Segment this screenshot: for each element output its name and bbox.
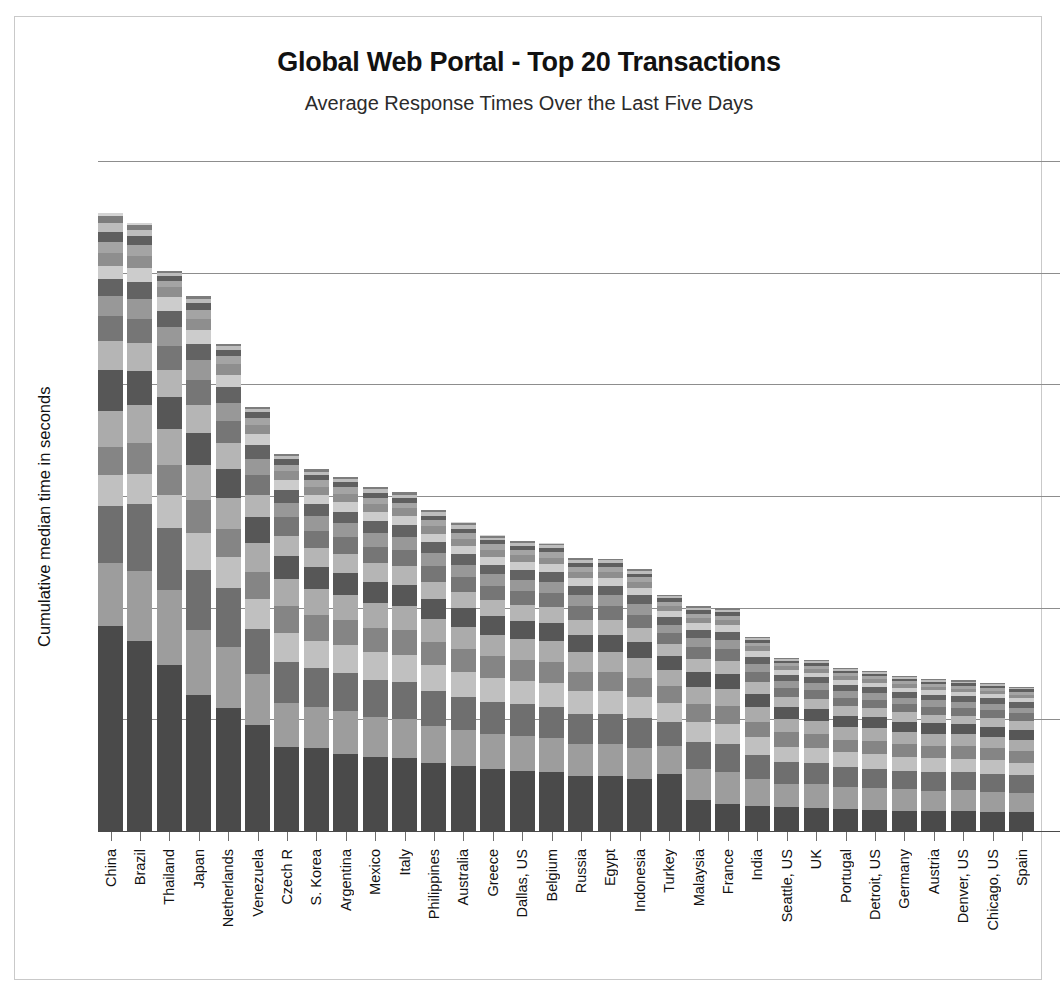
bar[interactable] <box>274 454 299 831</box>
bar-segment <box>392 758 417 831</box>
bar-segment <box>568 652 593 672</box>
x-tick-label: Russia <box>572 849 590 893</box>
bar-segment <box>216 443 241 469</box>
bar[interactable] <box>715 608 740 831</box>
x-tick-label: Venezuela <box>249 849 267 917</box>
bar-segment <box>245 459 270 475</box>
bar-segment <box>245 599 270 629</box>
x-tick <box>522 832 523 841</box>
chart-subtitle: Average Response Times Over the Last Fiv… <box>15 92 1043 115</box>
bar-segment <box>274 480 299 490</box>
bar-segment <box>186 405 211 433</box>
bar-segment <box>745 657 770 664</box>
bar-segment <box>568 586 593 595</box>
bar[interactable] <box>245 407 270 831</box>
bar[interactable] <box>186 296 211 831</box>
bar-segment <box>862 810 887 831</box>
bar-segment <box>921 758 946 772</box>
bar-segment <box>745 779 770 806</box>
bar[interactable] <box>686 606 711 831</box>
bar-segment <box>568 691 593 714</box>
bar-segment <box>980 718 1005 727</box>
bar-segment <box>421 582 446 599</box>
bar-segment <box>892 744 917 756</box>
x-tick-label: Brazil <box>131 849 149 885</box>
bar-segment <box>774 732 799 746</box>
bar-segment <box>892 722 917 733</box>
bar-segment <box>951 759 976 773</box>
bar-segment <box>157 370 182 397</box>
bar-segment <box>862 700 887 708</box>
bar-segment <box>657 703 682 722</box>
bar[interactable] <box>304 469 329 831</box>
bar-segment <box>363 652 388 680</box>
bar-segment <box>539 564 564 572</box>
x-tick <box>316 832 317 841</box>
bar[interactable] <box>921 679 946 831</box>
bar[interactable] <box>363 487 388 831</box>
bar[interactable] <box>833 668 858 831</box>
bar[interactable] <box>980 683 1005 831</box>
bar-segment <box>627 595 652 604</box>
bar-segment <box>245 725 270 831</box>
bar-segment <box>833 752 858 767</box>
x-tick <box>140 832 141 841</box>
bar[interactable] <box>568 558 593 831</box>
bar-segment <box>392 508 417 516</box>
bar[interactable] <box>745 637 770 831</box>
bar[interactable] <box>862 671 887 831</box>
bar[interactable] <box>1009 687 1034 831</box>
bar-segment <box>892 757 917 771</box>
bar[interactable] <box>657 595 682 831</box>
bar-segment <box>98 253 123 265</box>
bar[interactable] <box>451 522 476 831</box>
bar-segment <box>216 403 241 421</box>
bar-segment <box>686 800 711 831</box>
bar-segment <box>98 563 123 626</box>
bar[interactable] <box>480 535 505 831</box>
bar-segment <box>715 649 740 661</box>
bar[interactable] <box>392 492 417 831</box>
bar-segment <box>833 698 858 706</box>
bar-segment <box>157 287 182 297</box>
plot-area <box>98 161 1060 831</box>
bar-segment <box>833 740 858 753</box>
bar-segment <box>804 709 829 720</box>
bar[interactable] <box>510 541 535 831</box>
bar-segment <box>921 811 946 831</box>
bar-segment <box>539 593 564 607</box>
bar-segment <box>480 769 505 831</box>
bar-segment <box>598 595 623 606</box>
bar[interactable] <box>804 660 829 831</box>
bar[interactable] <box>333 477 358 831</box>
bar[interactable] <box>539 543 564 831</box>
bar-segment <box>98 626 123 831</box>
bar[interactable] <box>598 559 623 831</box>
bar-segment <box>627 697 652 719</box>
bar[interactable] <box>127 223 152 831</box>
bar-segment <box>216 647 241 708</box>
bar-segment <box>392 606 417 631</box>
bar-segment <box>1009 793 1034 812</box>
bar-segment <box>421 534 446 543</box>
bar[interactable] <box>892 676 917 831</box>
bar-segment <box>216 708 241 831</box>
x-tick <box>434 832 435 841</box>
bar-segment <box>804 748 829 763</box>
bar-segment <box>274 490 299 503</box>
bar-segment <box>862 754 887 769</box>
bar[interactable] <box>774 658 799 831</box>
bar-segment <box>568 714 593 744</box>
bar-segment <box>921 715 946 724</box>
bar-segment <box>421 726 446 763</box>
bar[interactable] <box>951 680 976 831</box>
bar[interactable] <box>98 213 123 832</box>
bar[interactable] <box>421 510 446 832</box>
bar-segment <box>568 606 593 619</box>
bar[interactable] <box>157 271 182 831</box>
x-tick-label: Belgium <box>543 849 561 901</box>
bar-segment <box>480 574 505 586</box>
bar[interactable] <box>627 569 652 831</box>
bar-segment <box>480 702 505 734</box>
bar[interactable] <box>216 344 241 831</box>
